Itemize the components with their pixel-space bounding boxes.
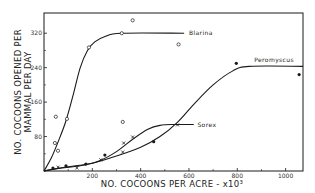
chart: 2004006008001000 80160240320 BlarinaSore… [0,0,315,193]
peromyscus-point [51,166,54,169]
blarina-point [53,141,56,144]
blarina-point [131,19,134,22]
peromyscus-point [64,164,67,167]
blarina-point [56,149,59,152]
peromyscus-label: Peromyscus [254,56,294,64]
y-axis-ticks: 80160240320 [31,29,47,154]
fit-curves [44,33,303,171]
x-tick-label: 200 [87,172,99,179]
plot-frame [44,13,303,171]
x-axis-ticks: 2004006008001000 [68,168,293,179]
y-tick-label: 80 [34,133,42,140]
blarina-point [121,120,124,123]
peromyscus-point [235,62,238,65]
sorex-curve [44,124,194,171]
peromyscus-point [84,163,87,166]
plot-border [44,13,303,171]
blarina-point [177,43,180,46]
x-axis-title: NO. COCOONS PER ACRE - x10³ [101,179,243,189]
x-tick-label: 600 [183,172,195,179]
blarina-curve [44,33,184,171]
series-labels: BlarinaSorexPeromyscus [189,29,294,127]
blarina-point [65,117,68,120]
data-points [51,19,300,170]
blarina-label: Blarina [189,29,213,36]
peromyscus-point [298,73,301,76]
sorex-label: Sorex [197,121,216,128]
blarina-point [54,115,57,118]
peromyscus-point [152,140,155,143]
sorex-point [121,151,124,154]
peromyscus-curve [44,66,303,171]
y-tick-label: 320 [31,29,43,36]
sorex-point [131,135,134,138]
x-tick-label: 400 [135,172,147,179]
y-axis-title-line2: MAMMAL PER DAY [23,51,33,133]
sorex-point [122,142,125,145]
x-tick-label: 800 [232,172,244,179]
peromyscus-point [103,153,106,156]
x-tick-label: 1000 [278,172,293,179]
y-axis-title-line1: NO. COCOONS OPENED PER [13,29,23,155]
sorex-point [75,166,78,169]
blarina-point [120,32,123,35]
blarina-point [87,46,90,49]
